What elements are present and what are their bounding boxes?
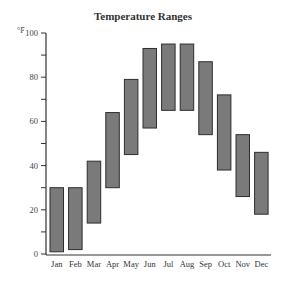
range-bar-aug [180,44,194,110]
y-axis: 020406080100 [25,28,46,259]
range-bar-feb [69,188,83,250]
range-bar-may [124,79,137,154]
y-tick-label: 20 [30,205,39,215]
x-tick-label: Feb [69,259,82,269]
range-bar-nov [236,135,250,197]
x-tick-label: May [123,259,139,269]
temperature-range-chart: 020406080100 JanFebMarAprMayJunJulAugSep… [0,0,286,285]
y-tick-label: 60 [30,116,39,126]
x-tick-label: Sep [199,259,212,269]
x-tick-label: Oct [218,259,231,269]
y-tick-label: 100 [25,28,38,38]
range-bar-apr [106,113,120,188]
range-bar-jun [143,48,157,128]
x-tick-label: Jul [163,259,174,269]
x-tick-label: Aug [180,259,195,269]
y-tick-label: 0 [34,249,38,259]
range-bar-dec [255,152,269,214]
x-tick-label: Jun [144,259,157,269]
y-tick-label: 40 [30,161,39,171]
x-tick-label: Nov [235,259,250,269]
range-bar-jul [162,44,176,110]
range-bar-oct [217,95,231,170]
x-tick-label: Dec [255,259,269,269]
range-bar-sep [199,62,213,135]
range-bars [50,44,268,252]
x-tick-label: Apr [106,259,119,269]
range-bar-jan [50,188,64,252]
x-tick-label: Mar [87,259,101,269]
y-tick-label: 80 [30,72,39,82]
x-axis: JanFebMarAprMayJunJulAugSepOctNovDec [46,255,271,269]
range-bar-mar [87,161,101,223]
x-tick-label: Jan [51,259,63,269]
